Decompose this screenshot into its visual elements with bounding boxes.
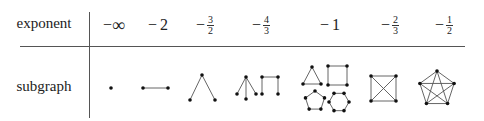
graph-edge xyxy=(237,77,246,94)
graph-edge xyxy=(312,67,321,84)
cycle-5-graph xyxy=(304,89,327,111)
graph-vertex xyxy=(200,73,204,77)
graph-vertex xyxy=(323,96,327,100)
graph-edge xyxy=(437,71,454,83)
single-edge-graph xyxy=(141,86,170,90)
graph-vertex xyxy=(313,89,317,93)
graph-edge xyxy=(303,67,312,84)
graph-vertex xyxy=(213,98,217,102)
graph-edge xyxy=(426,83,454,103)
graph-vertex xyxy=(345,83,349,87)
graph-vertex xyxy=(394,74,398,78)
graph-vertex xyxy=(452,82,456,86)
graph-edge xyxy=(202,75,215,100)
graph-edge xyxy=(448,83,455,103)
graph-vertex xyxy=(446,102,450,106)
single-vertex-graph xyxy=(109,86,113,90)
graph-vertex xyxy=(310,65,314,69)
graph-vertex xyxy=(394,99,398,103)
graph-edge xyxy=(426,71,437,104)
graph-vertex xyxy=(141,86,145,90)
graph-vertex xyxy=(301,82,305,86)
graph-vertex xyxy=(276,92,280,96)
graph-vertex xyxy=(435,69,439,73)
complete-5-graph xyxy=(418,69,456,105)
graph-vertex xyxy=(304,96,308,100)
graph-vertex xyxy=(319,82,323,86)
graph-vertex xyxy=(342,92,346,96)
graph-vertex xyxy=(307,107,311,111)
graph-vertex xyxy=(319,107,323,111)
graph-vertex xyxy=(332,92,336,96)
graph-edge xyxy=(420,83,427,103)
star-graph xyxy=(235,75,258,101)
complete-4-graph xyxy=(369,74,398,103)
graph-vertex xyxy=(260,92,264,96)
graph-vertex xyxy=(369,99,373,103)
graph-vertex xyxy=(347,100,351,104)
graph-vertex xyxy=(327,100,331,104)
cycle-3-graph xyxy=(301,65,323,86)
graph-vertex xyxy=(326,64,330,68)
cycle-4-graph xyxy=(326,64,349,87)
graph-vertex xyxy=(342,109,346,113)
graph-vertex xyxy=(254,92,258,96)
graph-vertex xyxy=(244,75,248,79)
graph-vertex xyxy=(235,92,239,96)
cycle-6-graph xyxy=(327,92,351,113)
graph-edge xyxy=(420,83,448,103)
graph-vertex xyxy=(332,109,336,113)
graph-vertex xyxy=(109,86,113,90)
graph-vertex xyxy=(369,74,373,78)
graph-vertex xyxy=(345,64,349,68)
path-4-graph xyxy=(260,75,280,96)
path-3-graph xyxy=(188,73,217,102)
graph-vertex xyxy=(260,75,264,79)
graph-edge xyxy=(246,77,256,94)
graph-vertex xyxy=(418,82,422,86)
graph-vertex xyxy=(326,83,330,87)
graph-edge xyxy=(420,71,437,83)
graph-vertex xyxy=(244,97,248,101)
graph-vertex xyxy=(425,102,429,106)
graph-vertex xyxy=(188,98,192,102)
subgraph-drawings xyxy=(0,0,484,121)
graph-vertex xyxy=(276,75,280,79)
graph-edge xyxy=(190,75,202,100)
graph-vertex xyxy=(166,86,170,90)
graph-edge xyxy=(437,71,448,104)
